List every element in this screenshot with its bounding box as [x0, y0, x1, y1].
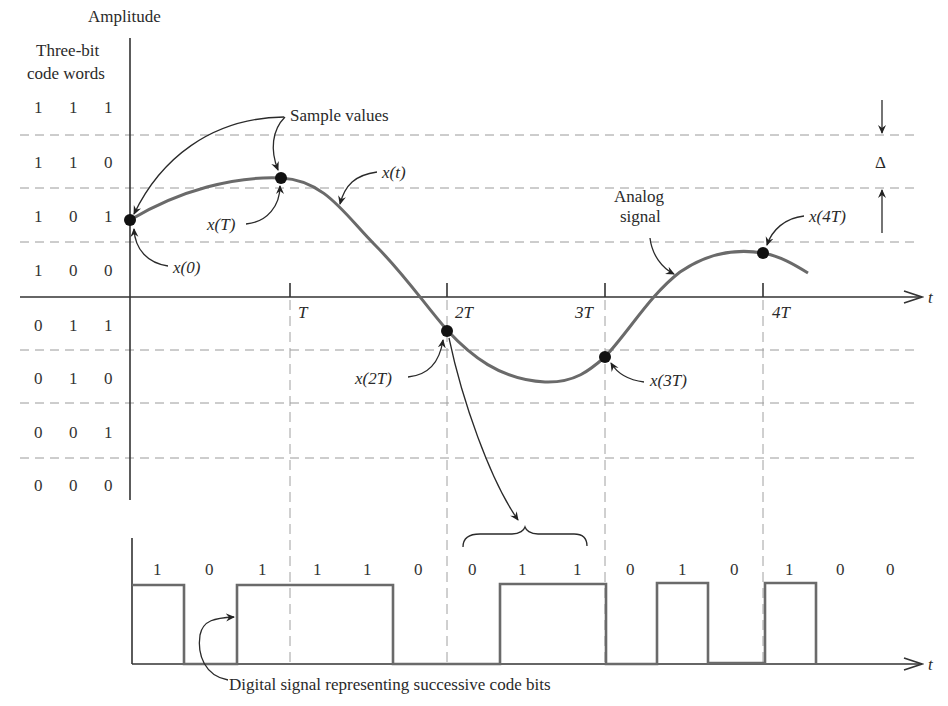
- code-bit: 1: [104, 207, 113, 226]
- delta-label: Δ: [875, 153, 886, 172]
- code-bit: 1: [34, 153, 43, 172]
- code-bit: 1: [34, 207, 43, 226]
- sample-time-lines: [290, 300, 763, 665]
- sample-dot-x0: [124, 214, 136, 226]
- bit-label: 1: [678, 560, 687, 579]
- code-bit: 1: [69, 316, 78, 335]
- bit-label: 0: [468, 560, 477, 579]
- bit-stream-labels: 1 0 1 1 1 0 0 1 1 0 1 0 1 0 0: [153, 560, 895, 579]
- code-bit: 1: [34, 261, 43, 280]
- sample-label-x2T: x(2T): [354, 369, 392, 388]
- bit-label: 0: [414, 560, 423, 579]
- analog-signal-curve: [130, 178, 808, 382]
- code-bit: 0: [104, 476, 113, 495]
- code-bit: 0: [69, 476, 78, 495]
- tick-label-4T: 4T: [772, 303, 792, 322]
- sample-dot-x4T: [757, 247, 769, 259]
- code-bit: 1: [69, 98, 78, 117]
- bit-label: 0: [836, 560, 845, 579]
- tick-label-2T: 2T: [455, 303, 475, 322]
- delta-step-indicator: Δ: [875, 100, 886, 233]
- code-bit: 0: [34, 369, 43, 388]
- sample-dot-x2T: [441, 325, 453, 337]
- xT-arrow: [246, 186, 280, 224]
- digital-time-axis-label: t: [928, 655, 934, 674]
- bit-label: 1: [573, 560, 582, 579]
- code-bit: 0: [104, 261, 113, 280]
- sample-values-arrow-1: [134, 117, 284, 214]
- code-bit: 1: [69, 369, 78, 388]
- bit-label: 0: [205, 560, 214, 579]
- code-bit: 1: [104, 423, 113, 442]
- bit-label: 1: [258, 560, 267, 579]
- sample-label-xT: x(T): [206, 215, 236, 234]
- codeword-header-line1: Three-bit: [36, 41, 100, 60]
- code-bit: 1: [69, 153, 78, 172]
- bit-label: 0: [730, 560, 739, 579]
- bit-label: 1: [363, 560, 372, 579]
- x0-arrow: [134, 229, 168, 266]
- code-bit: 0: [69, 207, 78, 226]
- x4T-arrow: [767, 216, 804, 245]
- time-ticks: T 2T 3T 4T: [290, 283, 792, 322]
- bit-label: 0: [886, 560, 895, 579]
- sample-label-x3T: x(3T): [649, 371, 687, 390]
- xt-label: x(t): [381, 163, 406, 182]
- code-bit: 0: [34, 316, 43, 335]
- x3T-arrow: [611, 363, 644, 382]
- sample-label-x4T: x(4T): [808, 207, 846, 226]
- bit-label: 1: [518, 560, 527, 579]
- code-bit: 0: [69, 261, 78, 280]
- codeword-header-line2: code words: [27, 64, 105, 83]
- bit-label: 1: [785, 560, 794, 579]
- pcm-diagram: Amplitude Three-bit code words t T 2T 3T…: [0, 0, 948, 706]
- code-bit: 1: [104, 316, 113, 335]
- analog-signal-label-line2: signal: [620, 207, 661, 226]
- bit-label: 1: [313, 560, 322, 579]
- tick-label-3T: 3T: [574, 303, 595, 322]
- sample-points: [124, 172, 769, 363]
- codeword-bracket: [463, 527, 587, 547]
- sample-values-arrow-2: [273, 117, 285, 170]
- code-bit: 0: [69, 423, 78, 442]
- analog-signal-label-line1: Analog: [614, 187, 665, 206]
- code-bit: 0: [104, 369, 113, 388]
- tick-label-T: T: [298, 303, 309, 322]
- bit-label: 0: [626, 560, 635, 579]
- digital-signal-caption: Digital signal representing successive c…: [229, 675, 551, 694]
- analog-signal-arrow: [650, 238, 674, 274]
- time-axis-label: t: [928, 288, 934, 307]
- code-bit: 0: [34, 476, 43, 495]
- code-bit: 1: [104, 98, 113, 117]
- sample-label-x0: x(0): [172, 258, 201, 277]
- code-bit: 0: [104, 153, 113, 172]
- sample-values-label: Sample values: [290, 106, 389, 125]
- code-bit: 1: [34, 98, 43, 117]
- bit-label: 1: [153, 560, 162, 579]
- code-bit: 0: [34, 423, 43, 442]
- codeword-mapping-arrow: [449, 338, 518, 520]
- sample-dot-xT: [275, 172, 287, 184]
- sample-dot-x3T: [599, 351, 611, 363]
- y-axis-label: Amplitude: [88, 7, 161, 26]
- x2T-arrow: [408, 340, 443, 377]
- digital-signal-arrow: [199, 617, 234, 680]
- digital-signal-waveform: [132, 583, 816, 664]
